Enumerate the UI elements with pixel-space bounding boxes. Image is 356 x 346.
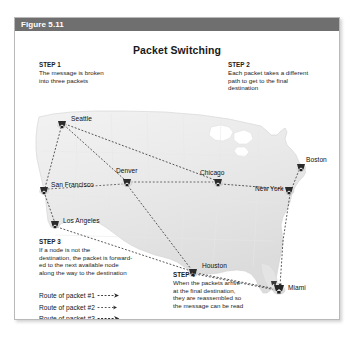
step-1-label: STEP 1 — [39, 61, 147, 69]
figure-number-label: Figure 5.11 — [21, 19, 64, 30]
legend-row-packet-2: Route of packet #2 — [39, 302, 189, 314]
legend-row-packet-1: Route of packet #1 — [39, 290, 189, 302]
step-note-3: STEP 3 If a node is not the destination,… — [39, 238, 163, 276]
node-new-york[interactable] — [284, 187, 295, 195]
node-san-francisco[interactable] — [39, 187, 49, 195]
city-label-houston: Houston — [202, 262, 227, 269]
step-4-label: STEP 4 — [173, 271, 277, 279]
legend-label-packet-1: Route of packet #1 — [39, 292, 95, 299]
legend-row-packet-3: Route of packet #3 — [39, 313, 189, 319]
node-boston[interactable] — [296, 164, 306, 172]
step-note-2: STEP 2 Each packet takes a different pat… — [228, 61, 339, 92]
step-3-label: STEP 3 — [39, 238, 163, 246]
city-label-los-angeles: Los Angeles — [63, 217, 99, 224]
step-2-label: STEP 2 — [228, 61, 339, 69]
city-label-san-francisco: San Francisco — [51, 181, 94, 188]
step-note-1: STEP 1 The message is broken into three … — [39, 61, 147, 84]
figure-screenshot: Figure 5.11 Packet Switching — [0, 0, 356, 346]
city-label-seattle: Seattle — [71, 115, 92, 122]
step-1-text: The message is broken into three packets — [39, 69, 147, 84]
city-label-new-york: New York — [255, 185, 283, 192]
city-label-miami: Miami — [288, 284, 306, 291]
legend-label-packet-2: Route of packet #2 — [39, 304, 95, 311]
figure-header-bar: Figure 5.11 — [15, 18, 339, 31]
figure-panel: Figure 5.11 Packet Switching — [14, 17, 340, 320]
node-los-angeles[interactable] — [50, 221, 60, 229]
node-seattle[interactable] — [57, 121, 67, 129]
dotted-arrow-icon-2 — [97, 304, 123, 311]
step-2-text: Each packet takes a different path to ge… — [228, 69, 339, 92]
city-label-denver: Denver — [116, 167, 138, 174]
node-chicago[interactable] — [213, 179, 224, 187]
dotted-arrow-icon-3 — [97, 315, 123, 319]
node-denver[interactable] — [122, 179, 133, 187]
step-3-text: If a node is not the destination, the pa… — [39, 246, 163, 276]
dotted-arrow-icon-1 — [97, 292, 123, 299]
city-label-boston: Boston — [306, 156, 327, 163]
city-label-chicago: Chicago — [200, 169, 225, 176]
legend-label-packet-3: Route of packet #3 — [39, 315, 95, 319]
figure-body: Packet Switching — [15, 31, 339, 319]
route-legend: Route of packet #1 Route of packet #2 Ro… — [39, 290, 189, 319]
